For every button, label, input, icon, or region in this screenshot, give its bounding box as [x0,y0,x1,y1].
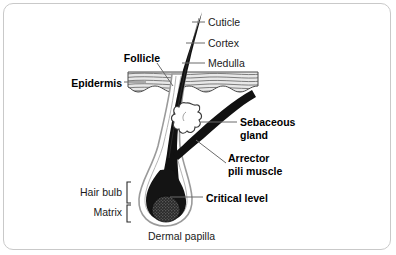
label-arrector-line2: pili muscle [228,165,282,178]
bracket-matrix [127,205,131,222]
hair-follicle-illustration [0,0,396,255]
label-cuticle: Cuticle [208,16,240,29]
label-critical-level: Critical level [206,192,268,205]
label-follicle: Follicle [108,52,160,65]
bracket-hair-bulb [127,182,131,203]
label-arrector-line1: Arrector [228,152,282,165]
label-sebaceous-gland: Sebaceous gland [240,116,295,141]
label-cortex: Cortex [208,37,239,50]
label-dermal-papilla: Dermal papilla [148,230,215,243]
leader-arrector [196,140,226,163]
label-arrector-pili-muscle: Arrector pili muscle [228,152,282,177]
sebaceous-gland [171,103,201,134]
epidermis-band [126,70,262,94]
label-medulla: Medulla [208,57,245,70]
label-sebaceous-line1: Sebaceous [240,116,295,129]
dermal-papilla [152,196,180,222]
label-matrix: Matrix [66,206,122,219]
label-hair-bulb: Hair bulb [66,186,122,199]
label-sebaceous-line2: gland [240,129,295,142]
brackets [127,182,131,222]
diagram-page: Cuticle Cortex Medulla Follicle Epidermi… [0,0,396,255]
label-epidermis: Epidermis [46,77,122,90]
